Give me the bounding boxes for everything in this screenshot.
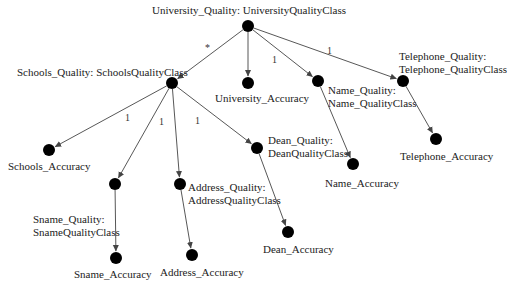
- edge-schools-sname: [118, 88, 169, 178]
- node-name: [312, 75, 324, 87]
- node-label-tel_acc: Telephone_Accuracy: [400, 150, 493, 163]
- edge-schools-schools_acc: [55, 86, 167, 147]
- node-label-name_acc: Name_Accuracy: [325, 177, 399, 190]
- multiplicity-label: 1: [272, 54, 277, 65]
- node-address_acc: [186, 249, 198, 261]
- node-label-line: Name_Quality:: [328, 84, 417, 97]
- node-label-line: Telephone_Quality:: [399, 50, 507, 63]
- multiplicity-label: 1: [195, 115, 200, 126]
- node-label-dean: Dean_Quality:DeanQualityClass: [268, 134, 348, 160]
- node-label-root: University_Quality: UniversityQualityCla…: [152, 4, 346, 17]
- node-dean: [251, 142, 263, 154]
- node-address: [174, 178, 186, 190]
- node-label-univ_acc: University_Accuracy: [215, 92, 309, 105]
- node-label-line: Dean_Quality:: [268, 134, 348, 147]
- node-label-tel: Telephone_Quality:Telephone_QualityClass: [399, 50, 507, 76]
- node-sname_acc: [110, 252, 122, 264]
- node-label-address_acc: Address_Accuracy: [160, 266, 244, 279]
- multiplicity-label: 1: [125, 112, 130, 123]
- node-label-line: Address_Quality:: [188, 181, 281, 194]
- node-label-line: AddressQualityClass: [188, 194, 281, 207]
- multiplicity-label: 1: [159, 116, 164, 127]
- multiplicity-label: 1: [327, 45, 332, 56]
- node-label-line: SnameQualityClass: [33, 226, 120, 239]
- node-label-line: DeanQualityClass: [268, 147, 348, 160]
- node-label-address: Address_Quality:AddressQualityClass: [188, 181, 281, 207]
- node-label-dean_acc: Dean_Accuracy: [263, 243, 334, 256]
- node-label-name: Name_Quality:Name_QualityClass: [328, 84, 417, 110]
- node-dean_acc: [282, 226, 294, 238]
- node-label-line: Telephone_QualityClass: [399, 63, 507, 76]
- node-label-sname_acc: Sname_Accuracy: [74, 268, 152, 281]
- node-schools_acc: [43, 144, 55, 156]
- node-univ_acc: [242, 77, 254, 89]
- node-name_acc: [347, 158, 359, 170]
- node-sname: [109, 178, 121, 190]
- node-label-line: Name_QualityClass: [328, 97, 417, 110]
- node-label-schools_acc: Schools_Accuracy: [8, 160, 90, 173]
- node-label-sname: Sname_Quality:SnameQualityClass: [33, 213, 120, 239]
- node-root: [242, 20, 254, 32]
- node-label-line: Sname_Quality:: [33, 213, 120, 226]
- edge-schools-address: [172, 89, 179, 177]
- edge-root-name: [253, 30, 313, 77]
- node-label-schools: Schools_Quality: SchoolsQualityClass: [17, 66, 188, 79]
- node-tel_acc: [430, 133, 442, 145]
- multiplicity-label: *: [205, 42, 210, 53]
